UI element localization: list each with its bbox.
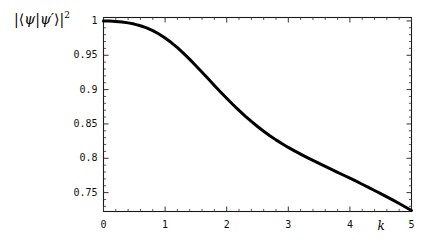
axis-ticks	[104, 18, 412, 212]
y-tick-label: 0.75	[54, 188, 98, 198]
y-tick-label: 0.95	[54, 50, 98, 60]
x-tick-label: 2	[215, 220, 239, 230]
x-tick-label: 3	[276, 220, 300, 230]
x-tick-label: 5	[400, 220, 424, 230]
x-tick-label: 1	[153, 220, 177, 230]
frame-rect	[104, 18, 412, 212]
x-tick-label: 4	[338, 220, 362, 230]
y-tick-label: 0.9	[54, 85, 98, 95]
x-tick-label: 0	[92, 220, 116, 230]
y-tick-label: 1	[54, 16, 98, 26]
curve-path	[104, 21, 412, 211]
y-tick-label: 0.85	[54, 119, 98, 129]
chart-figure: |⟨ψ|ψ′⟩|2 k 10.950.90.850.80.75012345	[0, 0, 433, 244]
data-curve	[104, 21, 412, 211]
plot-frame	[104, 18, 412, 212]
y-tick-label: 0.8	[54, 153, 98, 163]
